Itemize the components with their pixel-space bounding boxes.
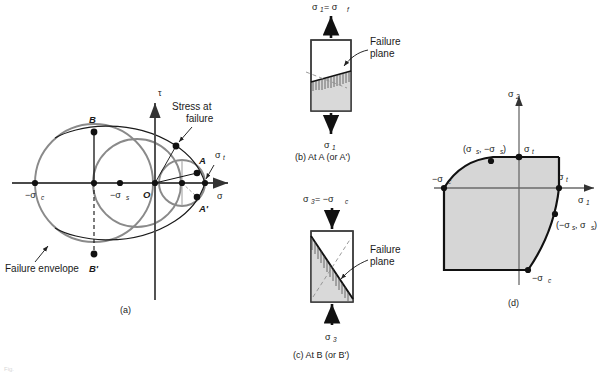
leader-sigma-t [206, 165, 214, 179]
note-stress-at-failure-line2: failure [186, 113, 214, 124]
point-origin [152, 180, 158, 186]
svg-text:σ: σ [312, 2, 318, 12]
svg-text:= −σ: = −σ [315, 194, 334, 204]
label-sigma3-bottom-c: σ 3 [325, 332, 337, 343]
label-minus-sigma-s: −σ s [110, 190, 130, 201]
note-failure-plane-b-line2: plane [370, 48, 395, 59]
label-sigma-t: σ t [215, 150, 226, 161]
caption-b: (b) At A (or A') [295, 152, 350, 162]
svg-text:, σ: , σ [575, 220, 586, 230]
panel-b: σ 1 = σ f σ 1 Failure plane (b) At A (or… [295, 2, 401, 162]
point-sigma-t-right-d [556, 185, 562, 191]
figure-svg: τ σ B B' A A' O −σ c −σ s σ t Stress at … [0, 0, 607, 375]
point-minus-sigmas-sigmas-d [552, 211, 558, 217]
label-origin: O [143, 189, 151, 200]
svg-text:1: 1 [586, 199, 590, 206]
note-failure-envelope: Failure envelope [5, 263, 79, 274]
svg-text:−σ: −σ [532, 273, 543, 283]
figure-footer-caption: Fig. [4, 366, 14, 372]
note-failure-plane-c-line1: Failure [370, 244, 401, 255]
tau-axis-label: τ [158, 88, 162, 98]
svg-text:2: 2 [515, 93, 520, 100]
svg-text:(σ: (σ [463, 144, 472, 154]
caption-d: (d) [508, 298, 519, 308]
svg-text:−σ: −σ [110, 190, 121, 200]
label-sigma3-equals-minus-sigmac: σ 3 = −σ c [303, 194, 349, 205]
svg-text:s: s [126, 194, 130, 201]
svg-text:): ) [594, 220, 597, 230]
label-point-sigmas-minus-sigmas: (σ s , −σ s ) [463, 144, 506, 155]
svg-text:t: t [532, 148, 535, 155]
panel-d: σ 2 σ 1 −σ c σ t σ t −σ c (σ s , −σ s ) [432, 89, 597, 308]
label-A: A [198, 155, 206, 166]
point-stress-at-failure [173, 143, 180, 150]
label-minus-sigma-c: −σ c [25, 190, 45, 201]
svg-text:σ: σ [215, 150, 221, 160]
caption-a: (a) [120, 305, 131, 315]
ray-O-to-failure-point [155, 146, 176, 183]
label-sigma1-bottom-b: σ 1 [324, 140, 336, 151]
point-minus-sigma-c-bottom-d [525, 267, 531, 273]
label-B: B [89, 114, 96, 125]
svg-text:c: c [345, 198, 349, 205]
svg-text:σ: σ [324, 140, 330, 150]
svg-text:−σ: −σ [432, 174, 443, 184]
label-sigma2-axis-d: σ 2 [508, 89, 520, 100]
figure-root: τ σ B B' A A' O −σ c −σ s σ t Stress at … [0, 0, 607, 375]
svg-text:1: 1 [332, 144, 336, 151]
svg-text:σ: σ [558, 172, 564, 182]
label-A-prime: A' [198, 203, 209, 214]
svg-text:σ: σ [524, 144, 530, 154]
point-sigmas-minus-sigmas-d [488, 158, 494, 164]
label-minus-sigma-c-left-d: −σ c [432, 174, 452, 185]
point-sigma-t [202, 180, 208, 186]
leader-failure-envelope [35, 246, 48, 262]
panel-a: τ σ B B' A A' O −σ c −σ s σ t Stress at … [5, 88, 228, 315]
sigma-axis-label: σ [217, 191, 223, 201]
svg-text:c: c [41, 194, 45, 201]
caption-c: (c) At B (or B') [293, 350, 349, 360]
panel-c: σ 3 = −σ c σ 3 Failure plane (c) At B (o… [293, 194, 401, 360]
point-sigma-t-top-d [516, 154, 523, 161]
label-sigma1-equals-sigmaf: σ 1 = σ f [312, 2, 350, 13]
svg-text:, −σ: , −σ [479, 144, 495, 154]
svg-text:σ: σ [508, 89, 514, 99]
point-tension-center [179, 180, 185, 186]
point-B-prime [91, 251, 98, 258]
svg-text:f: f [347, 6, 350, 13]
svg-text:σ: σ [303, 194, 309, 204]
failure-surface-fill-d [444, 157, 559, 270]
svg-text:t: t [223, 154, 226, 161]
point-compression-center [91, 180, 97, 186]
svg-text:3: 3 [333, 336, 337, 343]
svg-text:(−σ: (−σ [556, 220, 570, 230]
label-B-prime: B' [89, 263, 99, 274]
note-failure-plane-c-line2: plane [370, 256, 395, 267]
label-sigma1-axis-d: σ 1 [578, 195, 590, 206]
leader-stress-at-failure [179, 127, 192, 142]
svg-text:σ: σ [325, 332, 331, 342]
point-minus-sigma-c-left-d [441, 185, 447, 191]
point-A-prime [194, 194, 201, 201]
note-stress-at-failure-line1: Stress at [172, 101, 212, 112]
svg-text:= σ: = σ [324, 2, 338, 12]
note-failure-plane-b-line1: Failure [370, 36, 401, 47]
point-minus-sigma-s [117, 180, 123, 186]
svg-text:−σ: −σ [25, 190, 36, 200]
label-minus-sigma-c-bottom-d: −σ c [532, 273, 552, 284]
svg-text:t: t [566, 176, 569, 183]
point-B [91, 129, 98, 136]
label-sigma-t-top-d: σ t [524, 144, 535, 155]
svg-text:): ) [503, 144, 506, 154]
svg-text:σ: σ [578, 195, 584, 205]
label-sigma-t-right-d: σ t [558, 172, 569, 183]
point-minus-sigma-c [32, 180, 38, 186]
svg-text:c: c [548, 277, 552, 284]
point-A [194, 170, 201, 177]
label-point-minus-sigmas-sigmas: (−σ s , σ s ) [556, 220, 597, 231]
